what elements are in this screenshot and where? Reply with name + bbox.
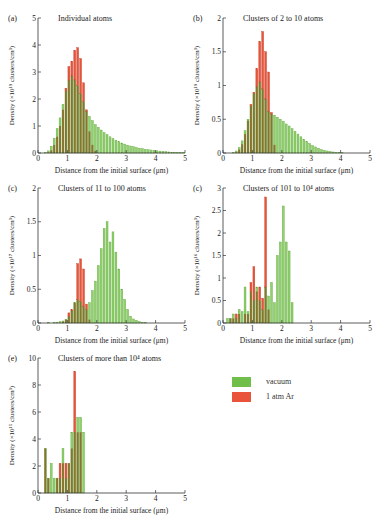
x-axis-label: Distance from the initial surface (μm) [55, 506, 169, 515]
bar-vacuum [50, 463, 52, 493]
y-tick-label: 0 [32, 489, 36, 498]
bar-overlap [56, 478, 58, 493]
x-tick-label: 0 [36, 494, 40, 503]
panel-title: Clusters of more than 10⁴ atoms [58, 354, 161, 363]
bar-overlap [77, 432, 79, 493]
legend-swatch-ar [232, 392, 251, 402]
bar-overlap [62, 463, 64, 493]
legend-item-ar: 1 atm Ar [232, 389, 294, 404]
x-tick-label: 5 [183, 494, 187, 503]
y-tick-label: 8 [32, 381, 36, 390]
bar-ar [59, 463, 61, 478]
bar-vacuum [83, 432, 85, 493]
y-tick-label: 4 [32, 435, 36, 444]
bar-overlap [71, 448, 73, 493]
panel-label: (e) [8, 354, 17, 363]
y-tick-label: 6 [32, 408, 36, 417]
bar-overlap [65, 478, 67, 493]
chart-svg-e: 0123450246810(e)Clusters of more than 10… [0, 0, 383, 523]
bar-overlap [47, 478, 49, 493]
bar-overlap [80, 432, 82, 493]
bar-overlap [44, 448, 46, 493]
y-tick-label: 2 [32, 462, 36, 471]
bar-ar [65, 463, 67, 478]
y-tick-label: 10 [29, 354, 37, 363]
legend-label-vacuum: vacuum [266, 377, 291, 386]
legend-label-ar: 1 atm Ar [266, 392, 294, 401]
y-axis-label: Density (×10¹⁵ clusters/cm³) [8, 385, 16, 465]
legend-swatch-vacuum [232, 377, 251, 387]
x-tick-label: 2 [95, 494, 99, 503]
bar-overlap [68, 463, 70, 493]
bar-overlap [74, 432, 76, 493]
x-tick-label: 3 [124, 494, 128, 503]
bar-vacuum [53, 478, 55, 493]
legend: vacuum 1 atm Ar [232, 374, 294, 404]
x-tick-label: 4 [154, 494, 158, 503]
bar-ar [74, 372, 76, 433]
legend-item-vacuum: vacuum [232, 374, 294, 389]
bar-overlap [59, 478, 61, 493]
x-tick-label: 1 [66, 494, 70, 503]
